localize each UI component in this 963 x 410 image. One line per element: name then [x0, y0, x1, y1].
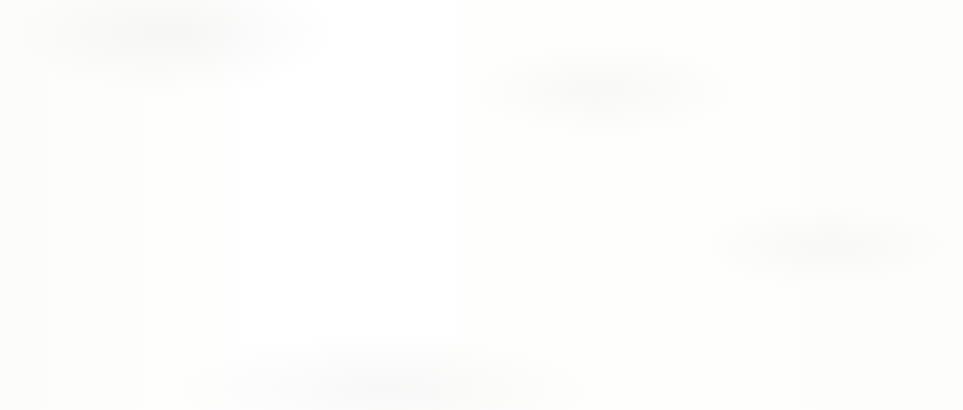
- chart-legend: ETC usersETC users growth trend: [31, 336, 937, 357]
- y-axis-tick-label: 300000: [80, 128, 144, 150]
- x-axis-tick-label: 2013: [606, 278, 647, 300]
- trendline-equation-annotation: y = 41602x - 83457576 R² = 0,9846: [640, 193, 880, 242]
- x-axis-tick-label: 2015: [741, 278, 782, 300]
- legend-item: ETC users growth trend: [438, 336, 682, 357]
- x-axis-tick-labels: 2006200720082009201020112012201320142015…: [152, 278, 897, 304]
- x-axis-tick-label: 2012: [538, 278, 579, 300]
- legend-dot-icon: [286, 341, 297, 352]
- trendline-r-squared-text: R² = 0,9846: [640, 218, 880, 243]
- x-axis-tick-label: 2008: [267, 278, 308, 300]
- data-point-marker: [146, 260, 159, 273]
- trendline-equation-text: y = 41602x - 83457576: [640, 193, 880, 218]
- x-axis-tick-label: 2009: [335, 278, 376, 300]
- legend-item-label: ETC users: [310, 336, 393, 357]
- y-axis-tick-label: 100000: [80, 215, 144, 237]
- x-axis-baseline: [152, 270, 897, 271]
- legend-item-label: ETC users growth trend: [497, 336, 682, 357]
- y-axis-tick-label: 500000: [80, 41, 144, 63]
- data-point-marker: [552, 162, 565, 175]
- x-axis-tick-label: 2006: [131, 278, 172, 300]
- legend-dotted-line-icon: [438, 345, 484, 348]
- data-point-marker: [620, 138, 633, 151]
- y-axis-tick-labels: 0100000200000300000400000500000: [52, 52, 144, 270]
- x-axis-tick-label: 2016: [809, 278, 850, 300]
- y-axis-tick-label: 400000: [80, 85, 144, 107]
- x-axis-tick-label: 2007: [199, 278, 240, 300]
- data-point-marker: [823, 89, 836, 102]
- legend-item: ETC users: [286, 336, 393, 357]
- data-point-marker: [891, 72, 904, 85]
- data-point-marker: [349, 218, 362, 231]
- x-axis-tick-label: 2010: [402, 278, 443, 300]
- x-axis-tick-label: 2017: [876, 278, 917, 300]
- x-axis-tick-label: 2011: [471, 278, 511, 300]
- y-axis-tick-label: 200000: [80, 172, 144, 194]
- x-axis-tick-label: 2014: [673, 278, 714, 300]
